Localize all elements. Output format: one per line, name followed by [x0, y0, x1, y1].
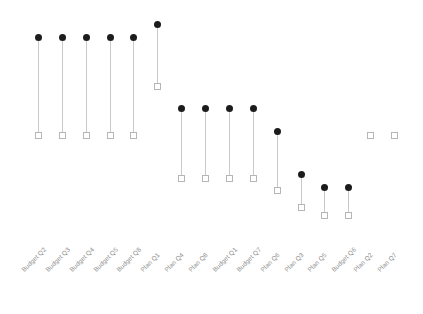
marker-low-square[interactable]	[274, 187, 281, 194]
dumbbell-connector	[205, 108, 206, 178]
marker-high-circle[interactable]	[35, 34, 42, 41]
dumbbell-connector	[133, 37, 134, 135]
marker-low-square[interactable]	[321, 212, 328, 219]
plot-area	[0, 0, 423, 262]
dumbbell-connector	[301, 174, 302, 207]
dumbbell-connector	[110, 37, 111, 135]
marker-low-square[interactable]	[226, 175, 233, 182]
marker-low-square[interactable]	[59, 132, 66, 139]
marker-low-square[interactable]	[107, 132, 114, 139]
dumbbell-connector	[38, 37, 39, 135]
marker-low-square[interactable]	[35, 132, 42, 139]
marker-high-circle[interactable]	[345, 184, 352, 191]
x-axis-labels: Budget Q2Budget Q3Budget Q4Budget Q5Budg…	[0, 262, 423, 314]
marker-high-circle[interactable]	[154, 21, 161, 28]
marker-high-circle[interactable]	[321, 184, 328, 191]
marker-low-square[interactable]	[345, 212, 352, 219]
dumbbell-chart: Budget Q2Budget Q3Budget Q4Budget Q5Budg…	[0, 0, 423, 314]
marker-high-circle[interactable]	[274, 128, 281, 135]
dumbbell-connector	[277, 131, 278, 190]
marker-low-square[interactable]	[391, 132, 398, 139]
marker-low-square[interactable]	[367, 132, 374, 139]
dumbbell-connector	[181, 108, 182, 178]
marker-high-circle[interactable]	[226, 105, 233, 112]
marker-high-circle[interactable]	[178, 105, 185, 112]
dumbbell-connector	[157, 24, 158, 86]
dumbbell-connector	[86, 37, 87, 135]
marker-high-circle[interactable]	[83, 34, 90, 41]
marker-low-square[interactable]	[298, 204, 305, 211]
marker-high-circle[interactable]	[107, 34, 114, 41]
marker-high-circle[interactable]	[59, 34, 66, 41]
dumbbell-connector	[253, 108, 254, 178]
marker-low-square[interactable]	[250, 175, 257, 182]
marker-low-square[interactable]	[154, 83, 161, 90]
dumbbell-connector	[62, 37, 63, 135]
dumbbell-connector	[229, 108, 230, 178]
marker-high-circle[interactable]	[250, 105, 257, 112]
marker-low-square[interactable]	[202, 175, 209, 182]
marker-low-square[interactable]	[83, 132, 90, 139]
marker-low-square[interactable]	[130, 132, 137, 139]
marker-high-circle[interactable]	[130, 34, 137, 41]
marker-high-circle[interactable]	[298, 171, 305, 178]
marker-low-square[interactable]	[178, 175, 185, 182]
marker-high-circle[interactable]	[202, 105, 209, 112]
